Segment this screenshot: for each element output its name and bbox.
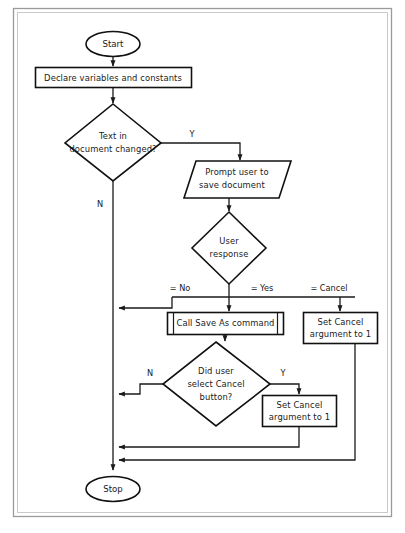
edge-response-no-to-trunk xyxy=(119,297,172,308)
did-user-cancel-label-line1: Did user xyxy=(198,366,234,376)
node-call-save-as[interactable]: Call Save As command xyxy=(168,313,284,335)
flowchart-canvas: Start Declare variables and constants Te… xyxy=(0,0,405,533)
node-set-cancel-right[interactable]: Set Cancel argument to 1 xyxy=(304,313,378,344)
stop-label: Stop xyxy=(103,484,123,494)
text-changed-label-line1: Text in xyxy=(98,131,127,141)
edge-label-response-no: = No xyxy=(170,283,191,293)
node-user-response-decision[interactable]: User response xyxy=(192,212,266,284)
edge-textchanged-yes-to-prompt xyxy=(161,143,240,160)
did-user-cancel-label-line2: select Cancel xyxy=(187,379,244,389)
edge-label-response-cancel: = Cancel xyxy=(310,283,347,293)
prompt-user-label-line2: save document xyxy=(199,180,265,190)
edge-setcancel-lower-to-trunk xyxy=(119,427,299,447)
node-did-user-cancel-decision[interactable]: Did user select Cancel button? xyxy=(163,342,270,426)
edge-didusercancel-no-to-trunk xyxy=(119,384,163,394)
set-cancel-lower-label-line1: Set Cancel xyxy=(277,400,323,410)
node-stop[interactable]: Stop xyxy=(86,477,140,502)
edge-label-changed-yes: Y xyxy=(188,129,195,139)
prompt-user-label-line1: Prompt user to xyxy=(205,167,268,177)
text-changed-label-line2: document changed? xyxy=(69,144,156,154)
edge-label-response-yes: = Yes xyxy=(251,283,274,293)
call-save-as-label: Call Save As command xyxy=(176,318,274,328)
set-cancel-right-label-line1: Set Cancel xyxy=(318,317,364,327)
flowchart-svg: Start Declare variables and constants Te… xyxy=(0,0,405,533)
node-prompt-user[interactable]: Prompt user to save document xyxy=(184,161,291,198)
node-text-changed-decision[interactable]: Text in document changed? xyxy=(65,104,161,181)
user-response-label-line2: response xyxy=(210,249,249,259)
edge-label-changed-no: N xyxy=(97,199,103,209)
declare-label: Declare variables and constants xyxy=(44,73,182,83)
text-changed-decision-shape xyxy=(65,104,161,181)
user-response-label-line1: User xyxy=(219,236,239,246)
edge-didusercancel-yes-to-setcancel xyxy=(270,384,299,394)
node-start[interactable]: Start xyxy=(86,32,140,57)
node-declare-variables[interactable]: Declare variables and constants xyxy=(36,68,192,88)
set-cancel-lower-label-line2: argument to 1 xyxy=(269,412,330,422)
start-label: Start xyxy=(103,39,125,49)
node-set-cancel-lower[interactable]: Set Cancel argument to 1 xyxy=(263,396,337,427)
edge-label-cancel-no: N xyxy=(147,368,153,378)
did-user-cancel-label-line3: button? xyxy=(200,392,233,402)
set-cancel-right-label-line2: argument to 1 xyxy=(310,329,371,339)
edge-label-cancel-yes: Y xyxy=(279,368,286,378)
